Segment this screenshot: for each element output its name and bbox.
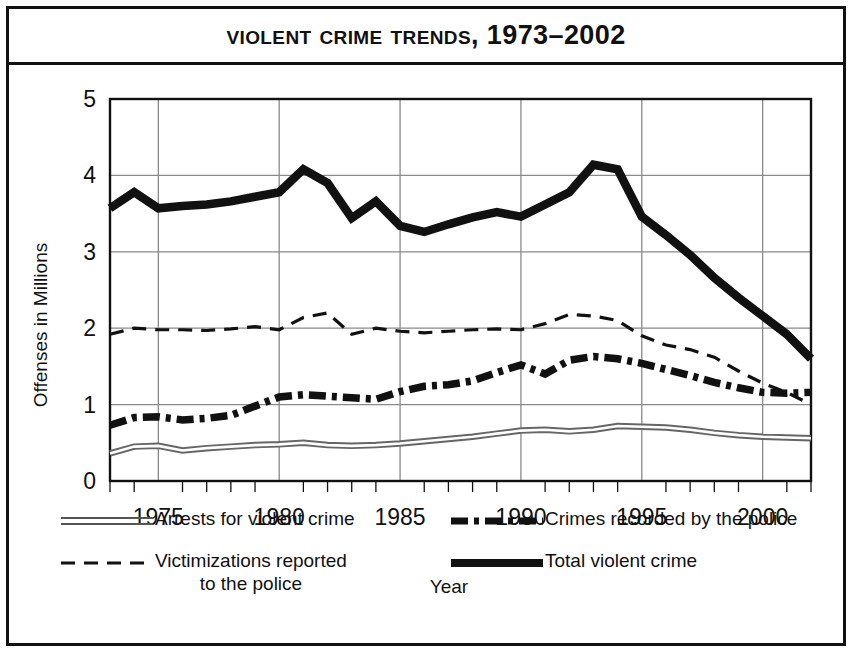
axis-ticks	[110, 481, 811, 492]
y-tick-label: 0	[83, 468, 96, 494]
chart-frame: Violent Crime Trends, 1973–2002 012345 1…	[6, 6, 846, 646]
legend-label-victimizations-line1: Victimizations reported	[155, 550, 347, 571]
chart-title: Violent Crime Trends, 1973–2002	[226, 20, 625, 51]
legend-label-victimizations: Victimizations reported to the police	[155, 549, 347, 595]
series-line	[110, 313, 811, 405]
chart-page: Violent Crime Trends, 1973–2002 012345 1…	[0, 0, 858, 659]
legend-item-total: Total violent crime	[449, 549, 697, 574]
y-tick-label: 2	[83, 315, 96, 341]
data-series-layer	[110, 165, 811, 454]
legend-key-total	[449, 552, 545, 574]
legend-item-arrests: Arrests for violent crime	[59, 507, 355, 532]
legend-key-recorded	[449, 510, 545, 532]
y-tick-label: 1	[83, 392, 96, 418]
legend-label-total: Total violent crime	[545, 549, 697, 572]
legend-label-arrests: Arrests for violent crime	[155, 507, 355, 530]
y-tick-label: 5	[83, 86, 96, 112]
chart-legend: Arrests for violent crime Crimes recorde…	[9, 507, 843, 617]
title-bar: Violent Crime Trends, 1973–2002	[9, 9, 843, 65]
series-line	[110, 426, 811, 454]
legend-item-recorded: Crimes recorded by the police	[449, 507, 797, 532]
gridlines	[110, 99, 811, 481]
legend-label-recorded: Crimes recorded by the police	[545, 507, 797, 530]
legend-key-victimizations	[59, 552, 155, 574]
legend-key-arrests	[59, 510, 155, 532]
legend-item-victimizations: Victimizations reported to the police	[59, 549, 347, 595]
y-axis-title: Offenses in Millions	[30, 243, 51, 407]
series-line	[110, 165, 811, 359]
series-line	[110, 356, 811, 425]
y-tick-label: 4	[83, 162, 96, 188]
y-tick-label: 3	[83, 239, 96, 265]
plot-border	[110, 99, 811, 481]
legend-label-victimizations-line2: to the police	[155, 572, 347, 595]
y-tick-labels: 012345	[83, 86, 96, 494]
